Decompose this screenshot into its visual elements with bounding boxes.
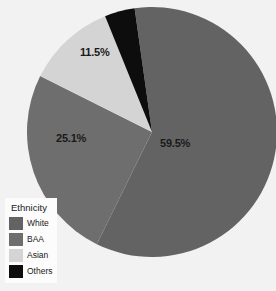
legend-item-white[interactable]: White (9, 216, 55, 230)
legend-item-baa[interactable]: BAA (9, 232, 55, 246)
pie-chart-figure: 59.5% 25.1% 11.5% Ethnicity White BAA As… (0, 0, 276, 291)
legend-label-asian: Asian (27, 250, 48, 260)
legend-swatch-white (9, 217, 23, 230)
legend-swatch-others (9, 265, 23, 278)
pie-label-baa: 25.1% (56, 132, 86, 144)
legend-title: Ethnicity (11, 202, 55, 213)
pie-label-white: 59.5% (160, 137, 190, 149)
pie-label-asian: 11.5% (80, 46, 110, 58)
legend: Ethnicity White BAA Asian Others (5, 198, 57, 283)
legend-item-asian[interactable]: Asian (9, 248, 55, 262)
legend-label-white: White (27, 218, 49, 228)
legend-label-baa: BAA (27, 234, 44, 244)
legend-swatch-baa (9, 233, 23, 246)
legend-label-others: Others (27, 266, 53, 276)
legend-item-others[interactable]: Others (9, 264, 55, 278)
legend-swatch-asian (9, 249, 23, 262)
